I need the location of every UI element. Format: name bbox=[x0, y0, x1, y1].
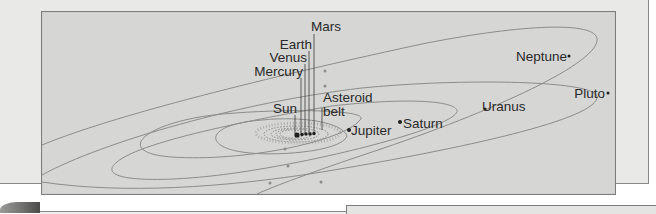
label-saturn: Saturn bbox=[403, 116, 443, 131]
orbit-pluto bbox=[42, 82, 597, 188]
solar-system-diagram: Mars Earth Venus Mercury Sun Asteroid be… bbox=[41, 11, 616, 195]
label-asteroid-belt-line1: Asteroid bbox=[323, 90, 373, 105]
orbit-direction-marker bbox=[320, 181, 323, 184]
partial-object-bottom-left bbox=[0, 202, 40, 213]
orbit-direction-marker bbox=[324, 85, 327, 88]
orbit-diagram-svg: Mars Earth Venus Mercury Sun Asteroid be… bbox=[42, 12, 615, 194]
label-sun: Sun bbox=[273, 101, 297, 116]
label-jupiter: Jupiter bbox=[351, 123, 392, 138]
label-pluto: Pluto bbox=[574, 86, 605, 101]
label-mars: Mars bbox=[311, 19, 341, 34]
saturn-dot bbox=[398, 120, 402, 124]
label-uranus: Uranus bbox=[482, 99, 526, 114]
pluto-dot bbox=[607, 92, 610, 95]
venus-dot bbox=[304, 132, 307, 135]
earth-dot bbox=[308, 132, 311, 135]
label-venus: Venus bbox=[269, 50, 307, 65]
neptune-dot bbox=[568, 55, 571, 58]
sun-dot bbox=[294, 132, 299, 137]
orbit-direction-marker bbox=[269, 182, 272, 185]
orbit-direction-marker bbox=[287, 165, 290, 168]
bottom-divider bbox=[40, 211, 346, 214]
next-panel-edge bbox=[346, 205, 656, 214]
orbit-direction-marker bbox=[324, 70, 327, 73]
mars-dot bbox=[312, 132, 315, 135]
mercury-dot bbox=[300, 133, 303, 136]
orbit-direction-marker bbox=[284, 148, 287, 151]
label-mercury: Mercury bbox=[254, 64, 303, 79]
label-asteroid-belt-line2: belt bbox=[323, 104, 345, 119]
label-neptune: Neptune bbox=[516, 49, 567, 64]
